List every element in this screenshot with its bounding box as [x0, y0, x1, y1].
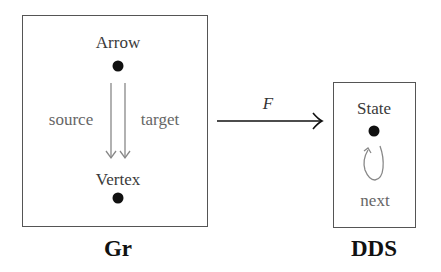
diagram-arrows [0, 0, 441, 272]
source-arrow-icon [106, 83, 116, 158]
functor-arrow-icon [217, 113, 322, 129]
next-loop-arrow-icon [364, 146, 383, 180]
target-arrow-icon [120, 83, 130, 158]
